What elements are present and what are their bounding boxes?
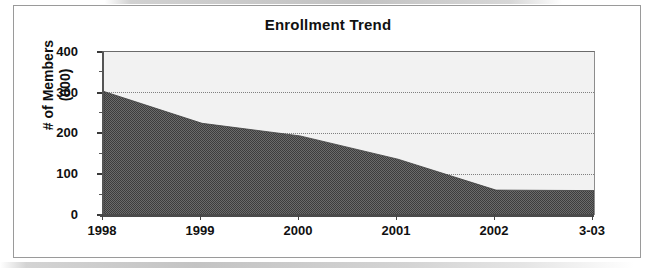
chart-figure: Enrollment Trend # of Members (000) 400 …: [13, 5, 641, 258]
scan-artifact-bottom: [0, 262, 654, 268]
x-tick-label-1998: 1998: [67, 223, 137, 238]
plot-area: [102, 51, 595, 215]
chart-title: Enrollment Trend: [14, 16, 642, 33]
y-tick-label-100: 100: [38, 166, 78, 181]
y-tick-label-400: 400: [38, 44, 78, 59]
x-tick-label-3-03: 3-03: [557, 223, 627, 238]
x-tick-label-1999: 1999: [165, 223, 235, 238]
area-path: [104, 92, 594, 216]
y-tick-label-0: 0: [38, 207, 78, 222]
x-axis-line: [100, 214, 594, 217]
x-tick-mark-1999: [200, 214, 201, 220]
x-tick-label-2002: 2002: [459, 223, 529, 238]
x-tick-mark-2002: [494, 214, 495, 220]
area-series-enrollment: [104, 52, 594, 215]
plot-inner: [104, 52, 594, 215]
x-tick-mark-1998: [102, 214, 103, 220]
y-tick-label-300: 300: [38, 85, 78, 100]
x-tick-label-2001: 2001: [361, 223, 431, 238]
x-tick-label-2000: 2000: [263, 223, 333, 238]
scan-artifact-top: [0, 0, 654, 4]
x-tick-mark-2001: [396, 214, 397, 220]
x-tick-mark-3-03: [592, 214, 593, 220]
y-tick-label-200: 200: [38, 125, 78, 140]
x-tick-mark-2000: [298, 214, 299, 220]
